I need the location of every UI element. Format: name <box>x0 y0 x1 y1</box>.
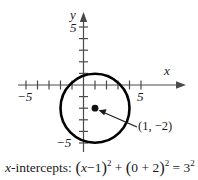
caption-rhs-exponent: 2 <box>190 158 195 168</box>
circle-graph-figure: x y −5 5 5 −5 (1, −2) x-intercepts: (x−1… <box>0 0 198 180</box>
caption-term2-rest: 0 + 2 <box>131 160 159 175</box>
y-tick-label-negative-five: −5 <box>56 136 71 149</box>
y-tick-label-five: 5 <box>70 21 77 34</box>
x-tick-label-five: 5 <box>137 90 144 103</box>
x-axis-arrowhead <box>176 81 186 88</box>
x-axis-label: x <box>164 64 170 77</box>
y-axis-arrowhead <box>80 12 87 22</box>
caption-equation: x-intercepts: (x−1)2 + (0 + 2)2 = 32 <box>5 158 195 178</box>
caption-term1-rest: −1 <box>87 160 101 175</box>
caption-prefix-rest: -intercepts: <box>11 160 72 175</box>
annotation-leader-line <box>102 112 138 128</box>
center-point-label: (1, −2) <box>138 120 172 133</box>
center-point-dot <box>92 105 99 112</box>
x-tick-label-negative-five: −5 <box>17 90 32 103</box>
annotation-arrowhead <box>99 109 107 115</box>
